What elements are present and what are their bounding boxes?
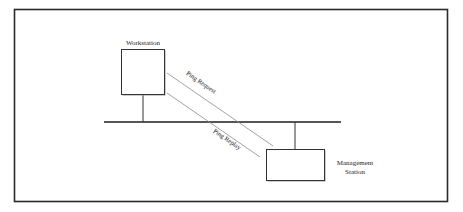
- workstation-node: Workstation: [122, 39, 166, 96]
- network-diagram: Workstation Management Station Ping Requ…: [0, 0, 463, 212]
- diagram-frame: [15, 10, 448, 202]
- workstation-label: Workstation: [126, 39, 161, 47]
- management-station-label-line2: Station: [345, 168, 365, 176]
- management-station-box: [267, 150, 325, 181]
- ping-replay-line: [167, 93, 260, 157]
- ping-request-label: Ping Request: [185, 69, 218, 94]
- workstation-box: [122, 50, 165, 95]
- management-station-node: Management Station: [267, 150, 374, 182]
- ping-replay-label: Ping Replay: [212, 127, 243, 151]
- management-station-label-line1: Management: [337, 159, 374, 167]
